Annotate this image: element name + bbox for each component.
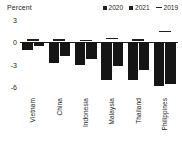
marker-2019: [106, 38, 118, 40]
marker-2019: [53, 39, 65, 41]
y-tick-neg6: -6: [11, 84, 20, 91]
bar-groups: [20, 18, 178, 96]
legend-label-2019: 2019: [164, 4, 178, 11]
bar-group: [73, 18, 99, 96]
bar-group: [152, 18, 178, 96]
legend-label-2021: 2021: [135, 4, 149, 11]
bar-2020: [101, 42, 112, 80]
legend-item-2020: 2020: [103, 4, 123, 11]
bar-2020: [75, 42, 86, 65]
bar-2020: [49, 42, 60, 63]
plot-area: 30-3-6: [20, 18, 178, 96]
marker-2019: [80, 40, 92, 42]
bar-2021: [34, 42, 45, 46]
y-tick-0: 0: [13, 39, 20, 46]
x-label-malaysia: Malaysia: [108, 98, 115, 124]
x-label-vietnam: Vietnam: [29, 98, 36, 122]
chart-legend: 2020 2021 2019: [103, 4, 178, 11]
bar-2021: [139, 42, 150, 70]
bar-group: [99, 18, 125, 96]
bar-group: [46, 18, 72, 96]
bar-group: [125, 18, 151, 96]
legend-dash-2019: [156, 7, 162, 9]
marker-2019: [159, 31, 171, 33]
legend-swatch-2020: [103, 6, 107, 10]
bar-2020: [154, 42, 165, 86]
bar-2020: [128, 42, 139, 80]
bar-2021: [165, 42, 176, 84]
x-axis-labels: VietnamChinaIndonesiaMalaysiaThailandPhi…: [20, 98, 178, 146]
y-tick-3: 3: [13, 16, 20, 23]
bar-2021: [86, 42, 97, 59]
x-label-indonesia: Indonesia: [82, 98, 89, 127]
legend-item-2019: 2019: [156, 4, 178, 11]
x-label-philippines: Philippines: [161, 98, 168, 131]
legend-swatch-2021: [129, 6, 133, 10]
bar-2020: [22, 42, 33, 50]
bar-2021: [60, 42, 71, 56]
bar-group: [20, 18, 46, 96]
marker-2019: [27, 39, 39, 41]
y-tick-neg3: -3: [11, 61, 20, 68]
y-axis-title: Percent: [7, 4, 32, 11]
chart-container: Percent 2020 2021 2019 30-3-6 VietnamChi…: [0, 0, 182, 148]
x-label-thailand: Thailand: [135, 98, 142, 124]
legend-label-2020: 2020: [109, 4, 123, 11]
bar-2021: [113, 42, 124, 66]
x-label-china: China: [56, 98, 63, 115]
marker-2019: [132, 39, 144, 41]
legend-item-2021: 2021: [129, 4, 149, 11]
